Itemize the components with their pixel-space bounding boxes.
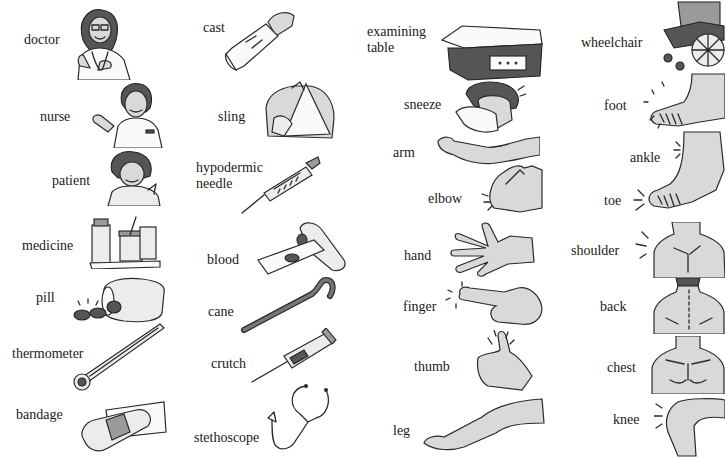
thermometer-icon	[72, 320, 168, 392]
cane-icon	[240, 276, 336, 334]
stethoscope-icon	[266, 382, 330, 454]
label-chest: chest	[607, 360, 636, 376]
label-wheelchair: wheelchair	[581, 35, 642, 51]
patient-icon	[104, 150, 164, 206]
label-crutch: crutch	[211, 356, 246, 372]
label-pill: pill	[36, 290, 55, 306]
leg-icon	[422, 393, 546, 453]
label-knee: knee	[613, 412, 639, 428]
syringe-icon	[240, 155, 322, 217]
foot-icon	[640, 72, 725, 130]
label-patient: patient	[52, 173, 90, 189]
elbow-icon	[480, 160, 544, 214]
label-sling: sling	[218, 109, 245, 125]
examining-table-icon	[440, 18, 544, 82]
hand-icon	[448, 222, 538, 278]
label-doctor: doctor	[24, 32, 60, 48]
nurse-icon	[88, 82, 168, 148]
wheelchair-icon	[660, 0, 725, 72]
label-thumb: thumb	[414, 359, 450, 375]
label-finger: finger	[403, 299, 436, 315]
back-icon	[652, 278, 725, 334]
label-leg: leg	[393, 423, 410, 439]
label-bandage: bandage	[16, 407, 63, 423]
toe-marks-icon	[632, 188, 652, 212]
sling-icon	[264, 78, 336, 150]
label-arm: arm	[393, 145, 415, 161]
blood-slide-icon	[256, 220, 352, 284]
knee-icon	[654, 398, 725, 458]
label-blood: blood	[207, 252, 239, 268]
label-hand: hand	[404, 248, 431, 264]
label-stethoscope: stethoscope	[194, 430, 259, 446]
sneeze-icon	[454, 80, 526, 140]
label-toe: toe	[604, 193, 621, 209]
label-nurse: nurse	[40, 109, 70, 125]
ankle-icon	[640, 130, 725, 212]
thumb-icon	[474, 330, 536, 394]
bandage-icon	[78, 396, 170, 458]
label-cane: cane	[208, 304, 234, 320]
doctor-icon	[70, 6, 134, 80]
label-back: back	[600, 299, 626, 315]
cast-icon	[222, 8, 297, 74]
finger-icon	[444, 280, 546, 332]
chest-icon	[650, 336, 725, 394]
label-medicine: medicine	[22, 238, 73, 254]
shoulder-icon	[634, 222, 725, 278]
crutch-icon	[248, 328, 342, 388]
label-shoulder: shoulder	[571, 243, 619, 259]
label-sneeze: sneeze	[404, 97, 441, 113]
label-examining-table: examining table	[367, 24, 426, 56]
label-foot: foot	[604, 98, 627, 114]
medicine-icon	[88, 215, 163, 269]
label-elbow: elbow	[428, 191, 462, 207]
